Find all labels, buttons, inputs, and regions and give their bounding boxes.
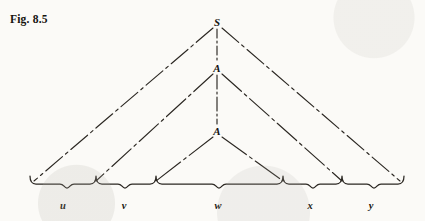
segment-label-w: w — [214, 200, 221, 211]
brace-baseline — [30, 176, 404, 188]
node-label-a-upper: A — [213, 62, 220, 74]
triangle-middle-left-side — [96, 74, 213, 181]
triangle-inner-right-side — [222, 137, 283, 181]
node-label-s: S — [214, 16, 220, 28]
triangle-outer-right-side — [222, 28, 400, 181]
bottom-brace-group — [30, 176, 404, 188]
node-label-a-lower: A — [213, 125, 220, 137]
segment-label-y: y — [369, 200, 374, 211]
figure-root: Fig. 8.5 S A A u v w x y — [0, 0, 425, 221]
triangle-inner-left-side — [156, 137, 213, 181]
triangle-middle-right-side — [222, 74, 342, 181]
segment-label-u: u — [60, 200, 66, 211]
segment-label-v: v — [122, 200, 127, 211]
parse-tree-diagram — [0, 0, 425, 221]
segment-label-x: x — [307, 200, 312, 211]
